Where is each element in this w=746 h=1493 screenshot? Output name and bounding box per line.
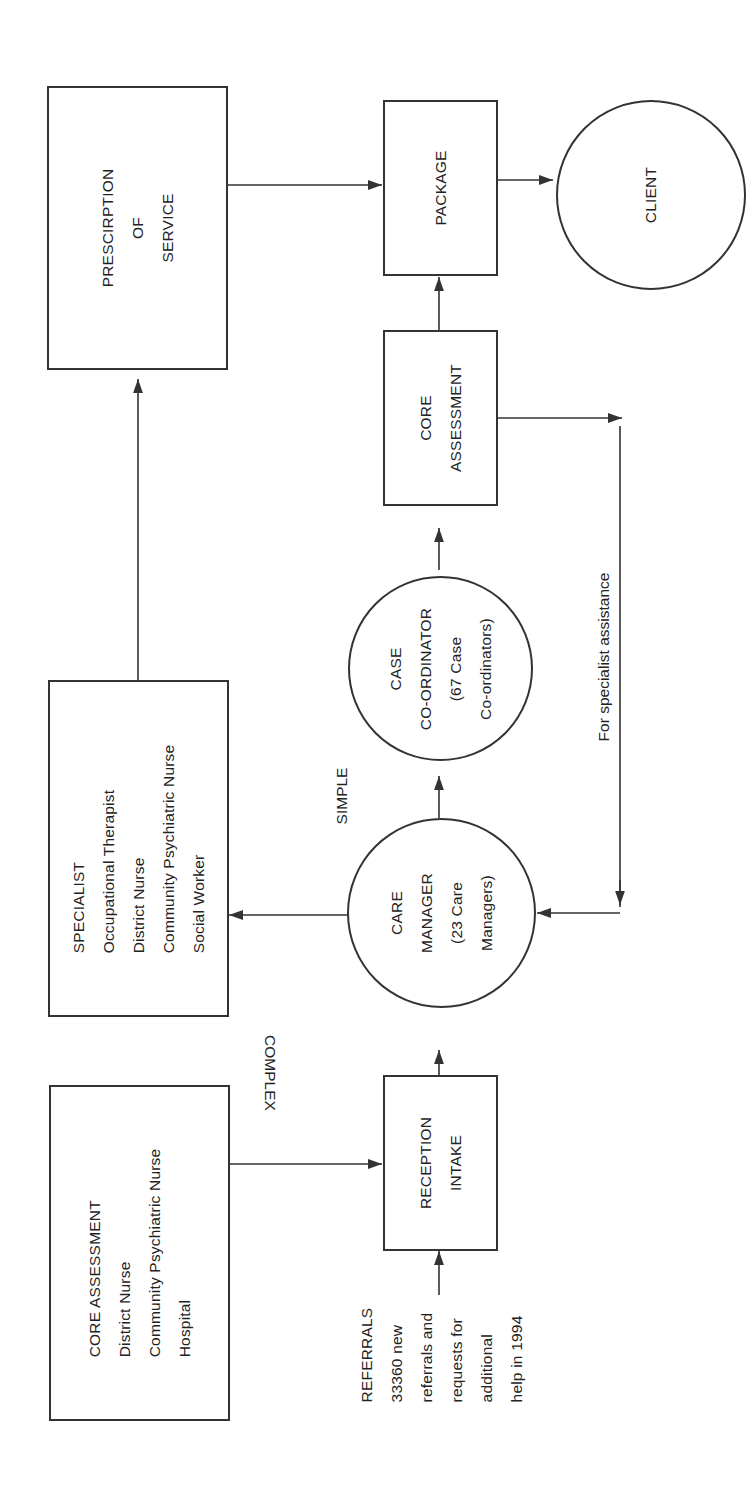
node-title: CORE ASSESSMENT [80,1149,110,1358]
care-manager-circle: CARE MANAGER (23 Care Managers) [347,818,536,1008]
node-text: PRESCIRPTION [93,169,123,288]
node-text: (23 Care [442,873,472,953]
client-circle: CLIENT [556,100,746,290]
node-text: Community Psychiatric Nurse [140,1149,170,1358]
node-text: CLIENT [636,167,666,223]
referrals-text-line: help in 1994 [502,1307,532,1402]
node-text: CASE [381,607,411,729]
node-text: PACKAGE [426,150,456,225]
node-text: Hospital [170,1149,200,1358]
referrals-text-line: referrals and [412,1307,442,1402]
reception-intake-box: RECEPTION INTAKE [383,1075,498,1251]
referrals-text-line: additional [472,1307,502,1402]
simple-label: SIMPLE [333,768,351,825]
specialist-box: SPECIALIST Occupational Therapist Distri… [48,680,229,1017]
case-coordinator-circle: CASE CO-ORDINATOR (67 Case Co-ordinators… [348,576,533,761]
node-title: SPECIALIST [64,744,94,953]
node-text: Social Worker [184,744,214,953]
node-text: CARE [382,873,412,953]
node-text: District Nurse [110,1149,140,1358]
package-box: PACKAGE [383,100,498,276]
node-text: (67 Case [441,607,471,729]
node-text: CORE [411,364,441,472]
core-assessment-box: CORE ASSESSMENT [383,330,498,506]
referrals-text: REFERRALS 33360 new referrals and reques… [352,1292,532,1417]
complex-label: COMPLEX [261,1035,279,1111]
referrals-text-line: 33360 new [382,1307,412,1402]
node-text: OF [123,169,153,288]
node-text: RECEPTION [411,1117,441,1209]
node-text: Co-ordinators) [471,607,501,729]
node-text: CO-ORDINATOR [411,607,441,729]
node-text: MANAGER [412,873,442,953]
node-text: Managers) [472,873,502,953]
node-text: Community Psychiatric Nurse [154,744,184,953]
node-text: INTAKE [441,1117,471,1209]
referrals-title: REFERRALS [352,1307,382,1402]
node-text: SERVICE [153,169,183,288]
node-text: ASSESSMENT [441,364,471,472]
prescription-of-service-box: PRESCIRPTION OF SERVICE [47,86,228,370]
core-assessment-sources-box: CORE ASSESSMENT District Nurse Community… [49,1085,230,1421]
referrals-text-line: requests for [442,1307,472,1402]
node-text: Occupational Therapist [94,744,124,953]
node-text: District Nurse [124,744,154,953]
specialist-assistance-label: For specialist assistance [595,573,613,742]
